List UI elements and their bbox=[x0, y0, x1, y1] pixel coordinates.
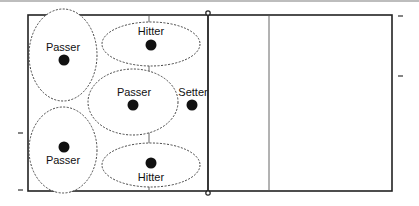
player-dot bbox=[146, 158, 157, 169]
player-dot bbox=[128, 100, 139, 111]
net-post-bottom bbox=[206, 191, 210, 195]
net-post-top bbox=[206, 11, 210, 15]
player-label: Passer bbox=[46, 154, 81, 166]
player-label: Hitter bbox=[138, 171, 165, 183]
player-dot bbox=[59, 142, 70, 153]
player-dot bbox=[146, 40, 157, 51]
player-label: Passer bbox=[117, 86, 152, 98]
player-label: Hitter bbox=[138, 25, 165, 37]
player-dot bbox=[59, 55, 70, 66]
player-label: Passer bbox=[46, 41, 81, 53]
volleyball-serve-receive-diagram: Passer Hitter Passer Setter Passer Hitte… bbox=[0, 0, 419, 206]
player-dot bbox=[187, 100, 198, 111]
player-label: Setter bbox=[178, 86, 208, 98]
player-setter: Setter bbox=[178, 86, 208, 111]
